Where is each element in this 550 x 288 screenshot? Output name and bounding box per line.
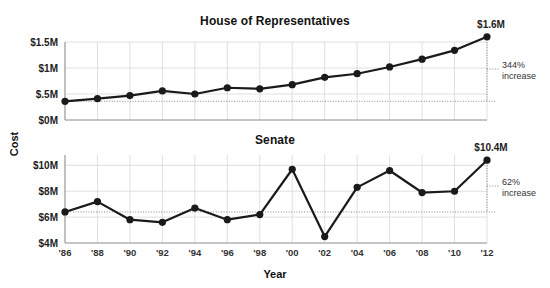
x-tick-label: '86 bbox=[59, 247, 72, 258]
senate-ytick: $6M bbox=[0, 212, 64, 223]
x-tick-label: '10 bbox=[448, 247, 461, 258]
senate-increase-annotation: 62% increase bbox=[502, 177, 536, 198]
x-tick-label: '12 bbox=[481, 247, 494, 258]
x-tick-label: '04 bbox=[351, 247, 364, 258]
x-tick-label: '96 bbox=[221, 247, 234, 258]
x-tick-label: '02 bbox=[318, 247, 331, 258]
senate-ytick: $10M bbox=[0, 160, 64, 171]
senate-ytick: $8M bbox=[0, 186, 64, 197]
x-tick-label: '06 bbox=[383, 247, 396, 258]
plot-senate bbox=[0, 0, 550, 288]
chart-figure: Cost Year House of Representatives $0M$.… bbox=[0, 0, 550, 288]
senate-ytick: $4M bbox=[0, 238, 64, 249]
senate-annot-line1: 62% bbox=[502, 177, 536, 188]
x-tick-label: '00 bbox=[286, 247, 299, 258]
x-tick-label: '98 bbox=[253, 247, 266, 258]
senate-end-value: $10.4M bbox=[474, 142, 507, 153]
x-tick-label: '90 bbox=[124, 247, 137, 258]
x-tick-label: '88 bbox=[91, 247, 104, 258]
x-tick-label: '92 bbox=[156, 247, 169, 258]
senate-annot-line2: increase bbox=[502, 188, 536, 199]
x-tick-label: '08 bbox=[416, 247, 429, 258]
x-tick-label: '94 bbox=[188, 247, 201, 258]
